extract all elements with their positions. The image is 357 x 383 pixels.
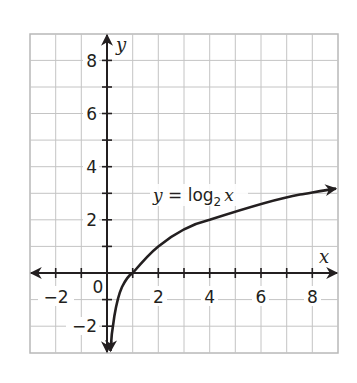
equation-equals-log: = log — [163, 185, 214, 205]
x-tick-label-2: 2 — [153, 287, 164, 307]
x-tick-label-8: 8 — [307, 287, 318, 307]
origin-label: 0 — [93, 277, 104, 297]
x-tick-label-4: 4 — [204, 287, 215, 307]
x-tick-label-neg2: −2 — [43, 287, 68, 307]
y-axis-label: y — [115, 34, 127, 55]
equation-x: x — [224, 185, 234, 205]
y-tick-label-6: 6 — [86, 104, 97, 124]
log-graph: −2 2 4 6 8 0 8 6 4 2 −2 x y y = log2x — [0, 0, 357, 383]
y-tick-label-4: 4 — [86, 157, 97, 177]
y-tick-label-8: 8 — [86, 51, 97, 71]
x-tick-label-6: 6 — [256, 287, 267, 307]
x-axis-label: x — [319, 246, 329, 267]
equation-y: y — [152, 185, 163, 205]
y-tick-label-neg2: −2 — [72, 316, 97, 336]
equation-subscript: 2 — [214, 195, 222, 209]
y-tick-label-2: 2 — [86, 210, 97, 230]
